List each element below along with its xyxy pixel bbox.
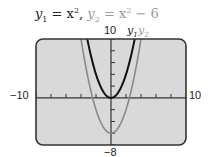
graph-window (0, 0, 209, 157)
